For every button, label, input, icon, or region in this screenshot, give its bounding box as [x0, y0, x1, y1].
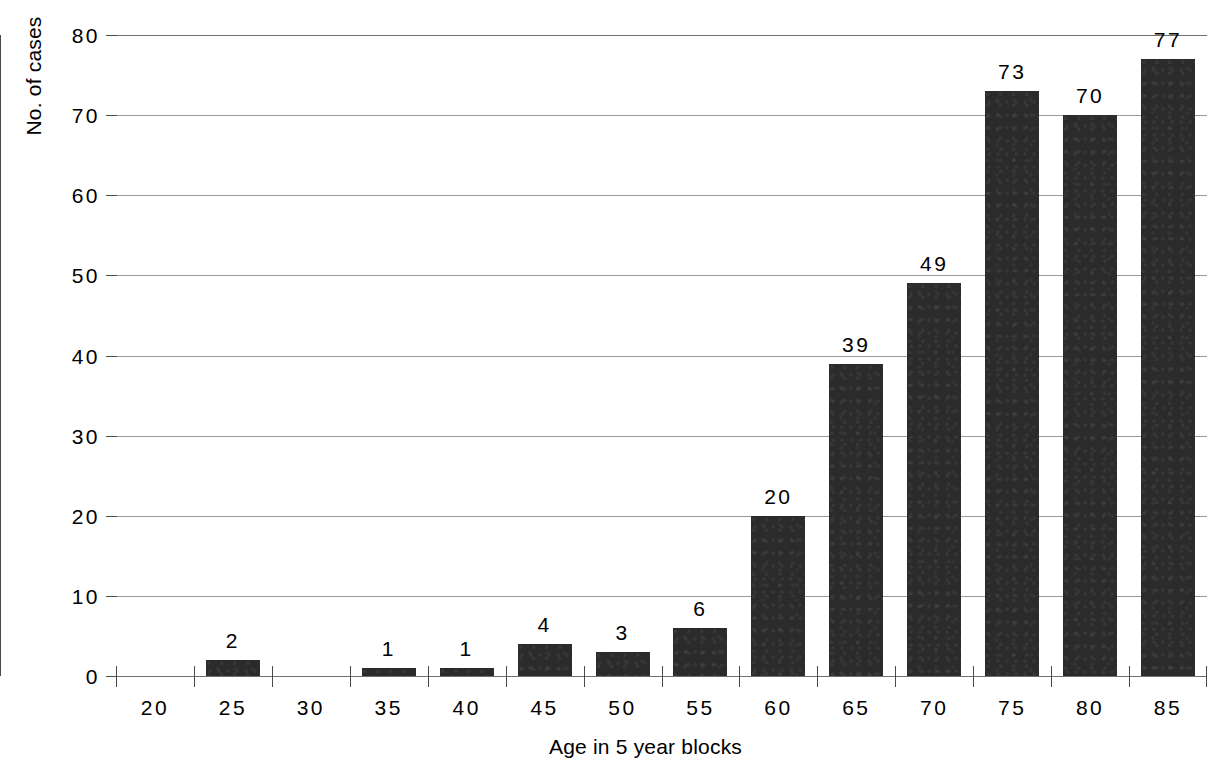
x-axis-tick-mark — [506, 666, 507, 687]
y-axis-tick-mark — [106, 275, 117, 276]
y-axis-tick-mark — [106, 516, 117, 517]
x-axis-tick-label: 45 — [530, 697, 558, 718]
x-axis-tick-label: 80 — [1076, 697, 1104, 718]
x-axis-tick-label: 55 — [686, 697, 714, 718]
bar-value-label: 3 — [615, 622, 629, 643]
bar-group: 2 — [194, 35, 272, 676]
bar-group: 1 — [350, 35, 428, 676]
bar-group: 6 — [662, 35, 740, 676]
bar[interactable] — [751, 516, 805, 676]
y-axis-tick-mark — [106, 676, 117, 677]
bar-value-label: 73 — [998, 61, 1026, 82]
bar-chart: No. of cases 01020304050607080 211436203… — [0, 0, 1227, 777]
x-axis-tick-mark — [973, 666, 974, 687]
bar-group: 73 — [973, 35, 1051, 676]
x-axis-tick-mark — [350, 666, 351, 687]
x-axis-tick-mark — [194, 666, 195, 687]
y-axis-line — [0, 35, 1, 676]
bar-group: 39 — [817, 35, 895, 676]
x-axis-tick-label: 50 — [608, 697, 636, 718]
bar-group: 3 — [584, 35, 662, 676]
x-axis-tick-mark — [1206, 666, 1207, 687]
x-axis-title-text: Age in 5 year blocks — [549, 735, 742, 758]
bar[interactable] — [829, 364, 883, 676]
y-axis-tick-mark — [106, 356, 117, 357]
x-axis-tick-mark — [1051, 666, 1052, 687]
y-axis-tick-label: 40 — [38, 345, 100, 366]
bar-value-label: 49 — [920, 253, 948, 274]
x-axis-tick-marks — [116, 666, 1207, 688]
x-axis-title: Age in 5 year blocks — [0, 735, 1227, 759]
x-axis-tick-mark — [895, 666, 896, 687]
bars-layer: 211436203949737077 — [116, 35, 1207, 676]
x-axis-tick-mark — [817, 666, 818, 687]
bar[interactable] — [907, 283, 961, 676]
y-axis-tick-labels: 01020304050607080 — [38, 0, 100, 777]
bar-group — [116, 35, 194, 676]
bar-value-label: 2 — [226, 630, 240, 651]
y-axis-tick-label: 70 — [38, 105, 100, 126]
bar-group: 1 — [428, 35, 506, 676]
bar-value-label: 1 — [460, 638, 474, 659]
bar-group: 20 — [739, 35, 817, 676]
bar-value-label: 6 — [693, 598, 707, 619]
x-axis-tick-mark — [739, 666, 740, 687]
x-axis-tick-label: 65 — [842, 697, 870, 718]
x-axis-tick-label: 30 — [297, 697, 325, 718]
bar-group: 4 — [506, 35, 584, 676]
x-axis-tick-label: 70 — [920, 697, 948, 718]
bar-group: 49 — [895, 35, 973, 676]
bar-value-label: 1 — [382, 638, 396, 659]
y-axis-tick-mark — [106, 596, 117, 597]
y-axis-tick-mark — [106, 35, 117, 36]
x-axis-tick-mark — [584, 666, 585, 687]
y-axis-tick-mark — [106, 436, 117, 437]
y-axis-tick-label: 10 — [38, 585, 100, 606]
bar-value-label: 39 — [842, 334, 870, 355]
y-axis-tick-label: 30 — [38, 425, 100, 446]
x-axis-tick-mark — [272, 666, 273, 687]
bar-group: 77 — [1129, 35, 1207, 676]
y-axis-tick-label: 60 — [38, 185, 100, 206]
x-axis-tick-label: 85 — [1154, 697, 1182, 718]
x-axis-tick-labels: 2025303540455055606570758085 — [116, 697, 1207, 727]
bar[interactable] — [1141, 59, 1195, 676]
y-axis-tick-label: 50 — [38, 265, 100, 286]
y-axis-tick-label: 80 — [38, 25, 100, 46]
x-axis-tick-label: 35 — [375, 697, 403, 718]
bar-value-label: 4 — [538, 614, 552, 635]
y-axis-tick-label: 20 — [38, 505, 100, 526]
x-axis-tick-label: 60 — [764, 697, 792, 718]
bar-value-label: 70 — [1076, 85, 1104, 106]
bar-value-label: 77 — [1154, 29, 1182, 50]
x-axis-tick-label: 75 — [998, 697, 1026, 718]
y-axis-tick-mark — [106, 195, 117, 196]
bar-group: 70 — [1051, 35, 1129, 676]
bar-group — [272, 35, 350, 676]
x-axis-tick-label: 20 — [141, 697, 169, 718]
x-axis-tick-mark — [428, 666, 429, 687]
bar[interactable] — [1063, 115, 1117, 676]
x-axis-tick-label: 25 — [219, 697, 247, 718]
x-axis-tick-mark — [1129, 666, 1130, 687]
x-axis-tick-label: 40 — [452, 697, 480, 718]
bar-value-label: 20 — [764, 486, 792, 507]
y-axis-tick-mark — [106, 115, 117, 116]
x-axis-tick-mark — [662, 666, 663, 687]
y-axis-tick-label: 0 — [38, 666, 100, 687]
bar[interactable] — [985, 91, 1039, 676]
